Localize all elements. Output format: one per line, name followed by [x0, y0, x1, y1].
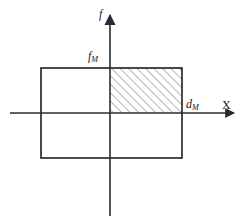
f-max-subscript: M	[91, 55, 98, 64]
d-max-label: dM	[186, 98, 199, 110]
f-max-label: fM	[88, 50, 98, 62]
hatched-quadrant	[110, 68, 182, 113]
x-axis-label: X	[222, 99, 231, 111]
f-axis-label: f	[99, 8, 102, 20]
figure-container: f fM dM X	[0, 0, 245, 224]
diagram-canvas	[0, 0, 245, 224]
d-max-subscript: M	[192, 103, 199, 112]
